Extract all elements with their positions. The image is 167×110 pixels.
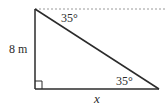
- angle-top-label: 35°: [61, 11, 78, 25]
- triangle-diagram: 35° 35° 8 m x: [0, 0, 167, 110]
- right-angle-marker: [35, 81, 42, 89]
- angle-bottom-right-label: 35°: [116, 74, 133, 88]
- vertical-side-label: 8 m: [9, 42, 28, 56]
- hypotenuse: [35, 9, 159, 89]
- horizontal-side-label: x: [93, 91, 100, 106]
